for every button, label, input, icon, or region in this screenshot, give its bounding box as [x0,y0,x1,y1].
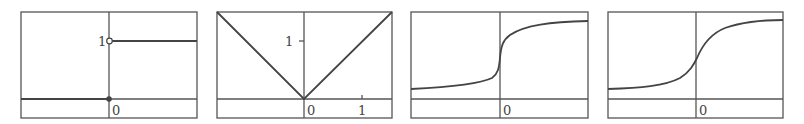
y-tick-label-1: 1 [98,34,106,49]
panel-absolute-value: 1 0 1 [217,12,392,118]
panel-step-function: 1 0 [21,12,197,118]
panel-steep-sigmoid: 0 [411,12,588,118]
panel-smooth-sigmoid: 0 [608,12,783,118]
x-tick-label-0: 0 [112,103,120,118]
y-tick-label-1: 1 [285,34,293,49]
x-tick-label-0: 0 [307,103,315,118]
x-tick-label-0: 0 [699,103,707,118]
x-tick-label-1: 1 [358,103,366,118]
function-graphs-figure: 1 0 1 0 1 0 0 [0,0,804,124]
open-circle-marker [107,38,113,44]
x-tick-label-0: 0 [503,103,511,118]
filled-dot-marker [106,96,112,102]
